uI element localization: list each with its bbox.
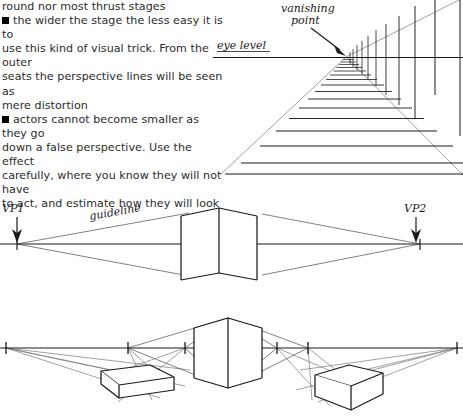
bullet1-line-2: use this kind of visual trick. From the …: [2, 42, 209, 69]
wing-verticals: [350, 0, 460, 136]
vp1-label: VP1: [2, 202, 24, 215]
right-low-box: [315, 365, 383, 410]
vanishing-point-label-line2: point: [291, 14, 320, 27]
bullet1-line-1: the wider the stage the less easy it is …: [2, 14, 223, 41]
eye-level-label: eye level: [217, 39, 266, 52]
central-cube: [181, 208, 257, 280]
bullet2-line-1: actors cannot become smaller as they go: [2, 113, 199, 140]
left-low-box: [101, 365, 174, 398]
vanishing-point-arrow-icon: [311, 28, 346, 56]
bullet1-line-4: mere distortion: [2, 99, 88, 112]
continuation-paragraph: round nor most thrust stages: [2, 0, 224, 14]
guideline-label: guideline: [88, 201, 142, 223]
guideline-lower-left: [17, 244, 189, 276]
cube-left-face-fill: [181, 208, 219, 280]
page-root: round nor most thrust stages the wider t…: [0, 0, 463, 418]
wedge-edge-lower-left: [220, 57, 346, 175]
vp1-arrow-icon: [12, 217, 22, 243]
bullet1-line-3: seats the perspective lines will be seen…: [2, 70, 222, 97]
square-bullet-icon: [2, 116, 9, 123]
wedge-edges: [220, 0, 463, 175]
cube-right-face-fill: [219, 208, 257, 280]
body-text-block: round nor most thrust stages the wider t…: [2, 0, 224, 211]
guideline-upper-right: [262, 214, 420, 244]
vp2-label: VP2: [404, 202, 426, 215]
guideline-lower-right: [262, 244, 420, 275]
continuation-line: round nor most thrust stages: [2, 0, 166, 13]
floor-lines: [225, 60, 463, 175]
one-point-perspective-figure: eye level vanishing point: [213, 0, 463, 178]
guide-ray: [6, 348, 190, 370]
square-bullet-icon: [2, 17, 9, 24]
central-cube: [194, 318, 262, 388]
bullet2-line-2: down a false perspective. Use the effect: [2, 141, 192, 168]
two-point-perspective-single-box-figure: VP1 VP2 guideline: [0, 186, 463, 296]
inner-guide-ray: [308, 348, 312, 400]
bullet-paragraph-1: the wider the stage the less easy it is …: [2, 14, 224, 113]
wedge-edge-upper-right: [346, 0, 463, 57]
cube-right-face-fill: [228, 318, 262, 388]
two-point-perspective-multi-box-figure: [0, 300, 463, 418]
cube-left-face-fill: [194, 318, 228, 388]
